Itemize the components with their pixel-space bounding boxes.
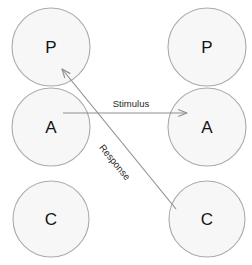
node-right-a[interactable]: A bbox=[168, 88, 246, 166]
node-left-p[interactable]: P bbox=[12, 8, 90, 86]
node-left-a[interactable]: A bbox=[12, 88, 90, 166]
pac-transaction-diagram: P A C P A C bbox=[0, 0, 252, 265]
node-label-left-a: A bbox=[45, 118, 57, 137]
node-label-left-p: P bbox=[45, 38, 56, 57]
response-label: Response bbox=[97, 142, 133, 182]
node-label-right-a: A bbox=[201, 118, 213, 137]
node-label-right-c: C bbox=[201, 210, 213, 229]
node-group-right: P A C bbox=[168, 8, 246, 257]
node-label-left-c: C bbox=[45, 210, 57, 229]
node-group-left: P A C bbox=[12, 8, 90, 257]
node-right-c[interactable]: C bbox=[169, 181, 245, 257]
node-right-p[interactable]: P bbox=[168, 8, 246, 86]
diagram-canvas: P A C P A C bbox=[0, 0, 252, 265]
stimulus-label: Stimulus bbox=[113, 98, 150, 109]
node-left-c[interactable]: C bbox=[13, 181, 89, 257]
node-label-right-p: P bbox=[201, 38, 212, 57]
